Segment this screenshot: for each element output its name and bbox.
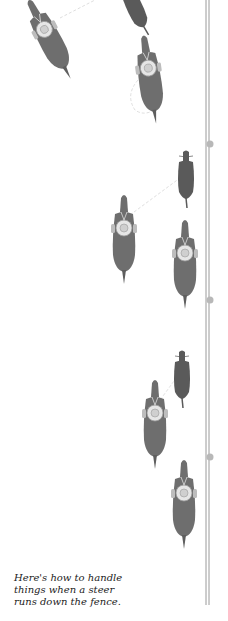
horse-rider-figure bbox=[171, 460, 197, 549]
fence-post bbox=[207, 141, 214, 148]
horse-rider-figure bbox=[111, 195, 137, 284]
steer-fence-diagram bbox=[0, 0, 228, 621]
horse-rider-figure bbox=[142, 380, 168, 469]
caption-line: things when a steer bbox=[14, 584, 164, 596]
fence bbox=[206, 0, 214, 605]
caption-line: Here's how to handle bbox=[14, 572, 164, 584]
steer-figure bbox=[174, 351, 190, 409]
horse-rider-figure bbox=[172, 220, 198, 309]
horse-rider-figure bbox=[131, 34, 169, 126]
steer-figure bbox=[178, 151, 194, 209]
fence-post bbox=[207, 454, 214, 461]
steer-figure bbox=[116, 0, 155, 39]
diagram-caption: Here's how to handle things when a steer… bbox=[14, 572, 164, 608]
horse-rider-figure bbox=[17, 0, 82, 85]
caption-line: runs down the fence. bbox=[14, 596, 164, 608]
fence-post bbox=[207, 297, 214, 304]
